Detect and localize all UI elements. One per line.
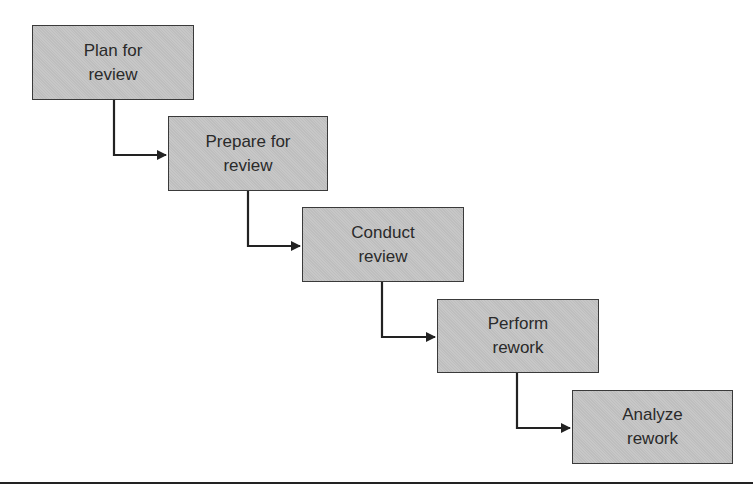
step-label: Perform rework bbox=[488, 312, 548, 360]
step-plan-for-review: Plan for review bbox=[32, 25, 194, 100]
arrow-1-to-2-icon bbox=[114, 100, 166, 155]
step-conduct-review: Conduct review bbox=[302, 207, 464, 282]
step-prepare-for-review: Prepare for review bbox=[168, 116, 328, 191]
arrow-3-to-4-icon bbox=[382, 282, 435, 337]
step-label: Plan for review bbox=[84, 39, 143, 87]
arrow-2-to-3-icon bbox=[248, 191, 300, 246]
step-perform-rework: Perform rework bbox=[437, 299, 599, 373]
arrow-4-to-5-icon bbox=[517, 373, 570, 428]
step-label: Prepare for review bbox=[205, 130, 290, 178]
step-label: Conduct review bbox=[351, 221, 414, 269]
step-label: Analyze rework bbox=[622, 403, 682, 451]
step-analyze-rework: Analyze rework bbox=[572, 390, 733, 464]
bottom-divider bbox=[0, 482, 753, 484]
